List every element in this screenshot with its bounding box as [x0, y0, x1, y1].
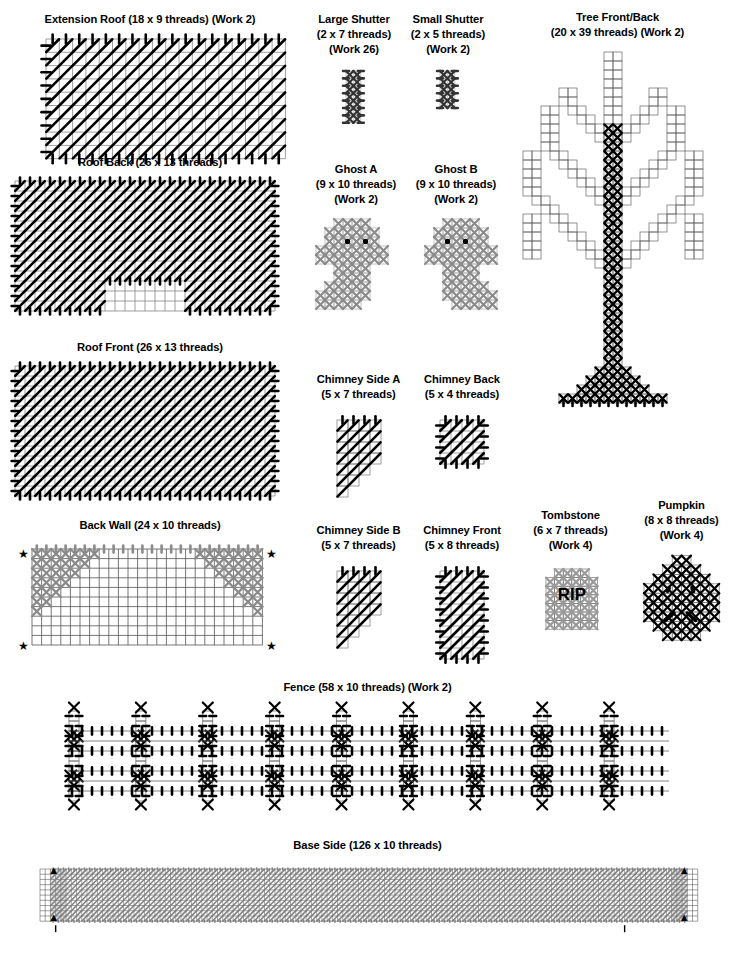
- panel-ghost-a: Ghost A (9 x 10 threads) (Work 2): [306, 162, 406, 315]
- large-shutter-chart: [341, 67, 367, 129]
- fence-grid: [63, 705, 673, 813]
- large-shutter-title: Large Shutter (2 x 7 threads) (Work 26): [306, 12, 402, 57]
- pumpkin-grid: [638, 551, 726, 643]
- small-shutter-title: Small Shutter (2 x 5 threads) (Work 2): [400, 12, 496, 57]
- roof-back-grid: [10, 176, 280, 312]
- panel-chimney-front: Chimney Front (5 x 8 threads): [412, 523, 512, 647]
- panel-tombstone: Tombstone (6 x 7 threads) (Work 4) RIP: [518, 508, 623, 633]
- back-wall-grid: ★★★★: [18, 541, 282, 651]
- small-shutter-grid: [435, 67, 461, 113]
- corner-triangle-marker: ▲: [678, 911, 689, 923]
- small-shutter-chart: [435, 67, 461, 113]
- extension-roof-grid: [40, 33, 288, 129]
- ghost-b-title: Ghost B (9 x 10 threads) (Work 2): [406, 162, 506, 207]
- chimney-side-b-title: Chimney Side B (5 x 7 threads): [306, 523, 411, 553]
- roof-front-chart: [10, 361, 280, 497]
- panel-ghost-b: Ghost B (9 x 10 threads) (Work 2): [406, 162, 506, 315]
- corner-star-marker: ★: [18, 547, 29, 561]
- panel-tree-front-back: Tree Front/Back (20 x 39 threads) (Work …: [500, 10, 735, 438]
- ghost-a-title: Ghost A (9 x 10 threads) (Work 2): [306, 162, 406, 207]
- extension-roof-title: Extension Roof (18 x 9 threads) (Work 2): [0, 12, 300, 27]
- ghost-a-grid: [311, 215, 401, 315]
- pumpkin-chart: [638, 551, 726, 643]
- extension-roof-chart: [40, 33, 288, 129]
- panel-small-shutter: Small Shutter (2 x 5 threads) (Work 2): [400, 12, 496, 113]
- chimney-side-a-grid: [334, 416, 384, 486]
- panel-chimney-back: Chimney Back (5 x 4 threads): [412, 372, 512, 456]
- panel-fence: Fence (58 x 10 threads) (Work 2): [0, 680, 735, 813]
- tombstone-chart: RIP: [541, 561, 601, 633]
- tombstone-grid: RIP: [541, 561, 601, 633]
- corner-star-marker: ★: [266, 639, 277, 653]
- panel-base-side: Base Side (126 x 10 threads) ▲▲▲▲: [0, 838, 735, 959]
- large-shutter-grid: [341, 67, 367, 129]
- tombstone-title: Tombstone (6 x 7 threads) (Work 4): [518, 508, 623, 553]
- ghost-b-chart: [411, 215, 501, 315]
- chimney-front-chart: [437, 567, 487, 647]
- corner-star-marker: ★: [266, 547, 277, 561]
- corner-triangle-marker: ▲: [48, 911, 59, 923]
- chimney-side-a-title: Chimney Side A (5 x 7 threads): [306, 372, 411, 402]
- roof-front-grid: [10, 361, 280, 497]
- roof-back-chart: [10, 176, 280, 312]
- tree-grid: [518, 48, 718, 438]
- roof-back-title: Roof Back (26 x 13 threads): [0, 155, 300, 170]
- panel-large-shutter: Large Shutter (2 x 7 threads) (Work 26): [306, 12, 402, 129]
- back-wall-title: Back Wall (24 x 10 threads): [0, 518, 300, 533]
- chimney-back-grid: [437, 416, 487, 456]
- tree-title: Tree Front/Back (20 x 39 threads) (Work …: [500, 10, 735, 40]
- panel-extension-roof: Extension Roof (18 x 9 threads) (Work 2): [0, 12, 300, 129]
- panel-back-wall: Back Wall (24 x 10 threads) ★★★★: [0, 518, 300, 651]
- base-side-chart: ▲▲▲▲: [34, 863, 702, 959]
- roof-front-title: Roof Front (26 x 13 threads): [0, 340, 300, 355]
- corner-triangle-marker: ▲: [678, 864, 689, 876]
- panel-chimney-side-a: Chimney Side A (5 x 7 threads): [306, 372, 411, 486]
- chimney-back-chart: [437, 416, 487, 456]
- chimney-front-grid: [437, 567, 487, 647]
- chimney-side-b-grid: [334, 567, 384, 637]
- panel-pumpkin: Pumpkin (8 x 8 threads) (Work 4): [628, 498, 735, 643]
- chimney-back-title: Chimney Back (5 x 4 threads): [412, 372, 512, 402]
- corner-triangle-marker: ▲: [48, 864, 59, 876]
- fence-chart: [63, 705, 673, 813]
- fence-title: Fence (58 x 10 threads) (Work 2): [0, 680, 735, 695]
- base-side-title: Base Side (126 x 10 threads): [0, 838, 735, 853]
- panel-roof-back: Roof Back (26 x 13 threads): [0, 155, 300, 312]
- ghost-b-grid: [411, 215, 501, 315]
- panel-chimney-side-b: Chimney Side B (5 x 7 threads): [306, 523, 411, 637]
- pumpkin-title: Pumpkin (8 x 8 threads) (Work 4): [628, 498, 735, 543]
- panel-roof-front: Roof Front (26 x 13 threads): [0, 340, 300, 497]
- corner-star-marker: ★: [18, 639, 29, 653]
- chimney-side-a-chart: [334, 416, 384, 486]
- base-side-grid: ▲▲▲▲: [34, 863, 702, 959]
- ghost-a-chart: [311, 215, 401, 315]
- back-wall-chart: ★★★★: [18, 541, 282, 651]
- tree-chart: [518, 48, 718, 438]
- chimney-front-title: Chimney Front (5 x 8 threads): [412, 523, 512, 553]
- chimney-side-b-chart: [334, 567, 384, 637]
- tombstone-inscription: RIP: [557, 585, 585, 604]
